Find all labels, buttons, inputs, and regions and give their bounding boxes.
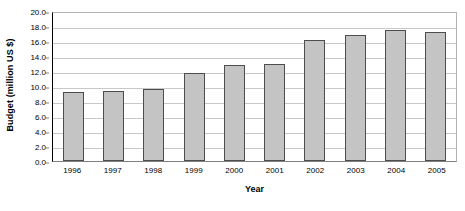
plot-area	[52, 12, 457, 162]
bar[interactable]	[143, 89, 164, 161]
bar[interactable]	[184, 73, 205, 162]
bar[interactable]	[224, 65, 245, 161]
bar-slot	[295, 13, 335, 161]
y-tick-label: 6.0	[35, 113, 46, 122]
x-tick-label: 1996	[52, 166, 93, 180]
bar-slot	[375, 13, 415, 161]
x-tick-label: 2005	[417, 166, 458, 180]
bar[interactable]	[63, 92, 84, 161]
y-tick-label: 8.0	[35, 98, 46, 107]
bar-slot	[214, 13, 254, 161]
x-axis-tick-labels: 1996 1997 1998 1999 2000 2001 2002 2003 …	[52, 166, 457, 180]
bars-layer	[53, 13, 456, 161]
y-tick-label: 18.0	[30, 23, 46, 32]
bar[interactable]	[304, 40, 325, 162]
y-tick-label: 0.0	[35, 158, 46, 167]
bar[interactable]	[425, 32, 446, 161]
bar[interactable]	[264, 64, 285, 162]
bar-chart-figure: Budget (million US $) 0.0 2.0 4.0 6.0 8.…	[0, 0, 465, 211]
y-tick-label: 20.0	[30, 8, 46, 17]
bar-slot	[174, 13, 214, 161]
y-axis-title-label: Budget (million US $)	[5, 38, 15, 131]
x-tick-label: 2001	[255, 166, 296, 180]
y-tick-label: 10.0	[30, 83, 46, 92]
x-tick-label: 2002	[295, 166, 336, 180]
y-tick-label: 14.0	[30, 53, 46, 62]
x-tick-label: 1997	[93, 166, 134, 180]
x-tick-label: 2004	[376, 166, 417, 180]
x-axis-title: Year	[52, 184, 457, 194]
bar-slot	[53, 13, 93, 161]
y-tick-label: 2.0	[35, 143, 46, 152]
y-tick-label: 12.0	[30, 68, 46, 77]
y-tick-label: 16.0	[30, 38, 46, 47]
bar-slot	[134, 13, 174, 161]
x-tick-label: 2000	[214, 166, 255, 180]
x-tick-label: 1999	[174, 166, 215, 180]
bar[interactable]	[385, 30, 406, 161]
bar[interactable]	[345, 35, 366, 161]
bar-slot	[335, 13, 375, 161]
bar[interactable]	[103, 91, 124, 162]
y-tick-label: 4.0	[35, 128, 46, 137]
x-tick-label: 2003	[336, 166, 377, 180]
bar-slot	[93, 13, 133, 161]
y-axis-title: Budget (million US $)	[0, 0, 20, 170]
y-axis-tick-labels: 0.0 2.0 4.0 6.0 8.0 10.0 12.0 14.0 16.0 …	[20, 12, 49, 162]
x-tick-label: 1998	[133, 166, 174, 180]
bar-slot	[254, 13, 294, 161]
bar-slot	[416, 13, 456, 161]
